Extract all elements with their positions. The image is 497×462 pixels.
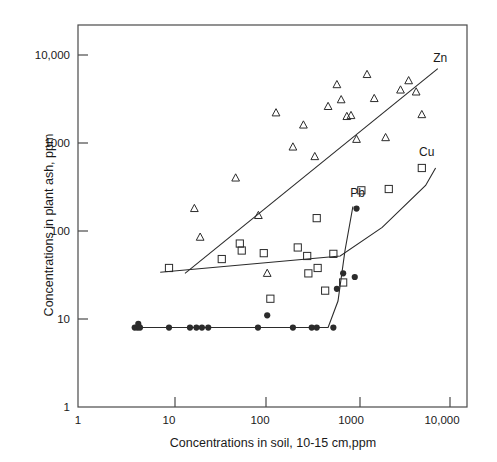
data-point-cu <box>165 264 172 271</box>
series-layer <box>132 69 438 331</box>
data-point-cu <box>267 295 274 302</box>
data-point-zn <box>333 80 341 87</box>
data-point-cu <box>294 244 301 251</box>
data-point-pb <box>334 286 340 292</box>
data-point-cu <box>385 185 392 192</box>
data-point-pb <box>264 312 270 318</box>
data-point-pb <box>340 270 346 276</box>
x-axis-ticks <box>175 397 450 407</box>
y-tick-label: 10 <box>18 313 70 325</box>
data-point-pb <box>352 274 358 280</box>
data-point-cu <box>218 255 225 262</box>
plot-frame <box>78 25 467 407</box>
data-point-zn <box>405 77 413 84</box>
data-point-pb <box>314 324 320 330</box>
data-point-pb <box>255 324 261 330</box>
y-tick-label: 100 <box>18 225 70 237</box>
data-point-zn <box>272 109 280 116</box>
series-label-zn: Zn <box>433 51 447 65</box>
data-point-pb <box>330 324 336 330</box>
data-point-cu <box>418 164 425 171</box>
y-tick-label: 1 <box>18 401 70 413</box>
x-tick-label: 10,000 <box>424 414 459 426</box>
data-point-pb <box>353 205 359 211</box>
data-point-cu <box>313 215 320 222</box>
data-point-cu <box>260 250 267 257</box>
y-tick-label: 10,000 <box>18 49 70 61</box>
trend-line-cu <box>160 168 435 272</box>
data-point-pb <box>187 324 193 330</box>
data-point-zn <box>300 121 308 128</box>
x-tick-label: 100 <box>250 414 269 426</box>
data-point-cu <box>322 287 329 294</box>
data-point-zn <box>311 152 319 159</box>
data-point-zn <box>324 102 332 109</box>
data-point-zn <box>370 94 378 101</box>
y-tick-label: 1000 <box>18 137 70 149</box>
data-point-zn <box>382 133 390 140</box>
data-point-pb <box>290 324 296 330</box>
x-tick-label: 1 <box>75 414 81 426</box>
data-point-pb <box>137 324 143 330</box>
series-cu <box>160 164 435 302</box>
data-point-zn <box>289 143 297 150</box>
x-tick-label: 1000 <box>338 414 364 426</box>
data-point-cu <box>238 247 245 254</box>
series-zn <box>185 69 438 277</box>
series-label-cu: Cu <box>419 145 434 159</box>
trend-line-zn <box>185 69 438 274</box>
data-point-zn <box>418 110 426 117</box>
y-axis-ticks <box>78 55 88 319</box>
x-tick-label: 10 <box>163 414 176 426</box>
data-point-zn <box>337 96 345 103</box>
x-axis-title: Concentrations in soil, 10-15 cm,ppm <box>78 436 468 450</box>
data-point-pb <box>205 324 211 330</box>
data-point-zn <box>263 269 271 276</box>
series-label-pb: Pb <box>350 186 365 200</box>
data-point-zn <box>232 174 240 181</box>
data-point-zn <box>191 204 199 211</box>
data-point-zn <box>196 233 204 240</box>
data-point-pb <box>193 324 199 330</box>
data-point-zn <box>363 70 371 77</box>
data-point-pb <box>166 324 172 330</box>
data-point-cu <box>236 240 243 247</box>
data-point-cu <box>305 270 312 277</box>
data-point-pb <box>199 324 205 330</box>
data-point-zn <box>397 86 405 93</box>
log-log-scatter-plot <box>0 0 497 462</box>
data-point-cu <box>314 264 321 271</box>
